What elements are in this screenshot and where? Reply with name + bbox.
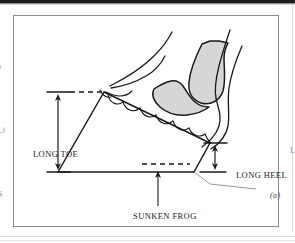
scanned-page: n LC S L <box>0 0 295 243</box>
label-long-heel: LONG HEEL <box>236 171 287 180</box>
bleed-text-left-middle: LC <box>0 126 5 135</box>
coronary-band-outline <box>111 56 165 88</box>
coffin-bone-shape <box>189 41 228 104</box>
page-gutter-bottom-secondary <box>0 240 295 241</box>
bleed-text-left-top: n <box>0 62 4 71</box>
bleed-text-left-bottom: S <box>0 190 6 199</box>
label-long-toe: LONG TOE <box>33 150 78 159</box>
page-gutter-right <box>292 4 293 232</box>
page-gutter-bottom <box>0 236 295 237</box>
label-sunken-frog: SUNKEN FROG <box>133 212 197 221</box>
hoof-diagram-illustration <box>14 16 278 226</box>
figure-frame: LONG TOE LONG HEEL SUNKEN FROG (a) <box>13 15 279 227</box>
hoof-wall-toe-line <box>58 92 104 172</box>
bleed-text-right: L <box>290 146 295 155</box>
scan-edge-band-fade <box>0 3 295 5</box>
figure-caption-marker: (a) <box>270 192 281 200</box>
